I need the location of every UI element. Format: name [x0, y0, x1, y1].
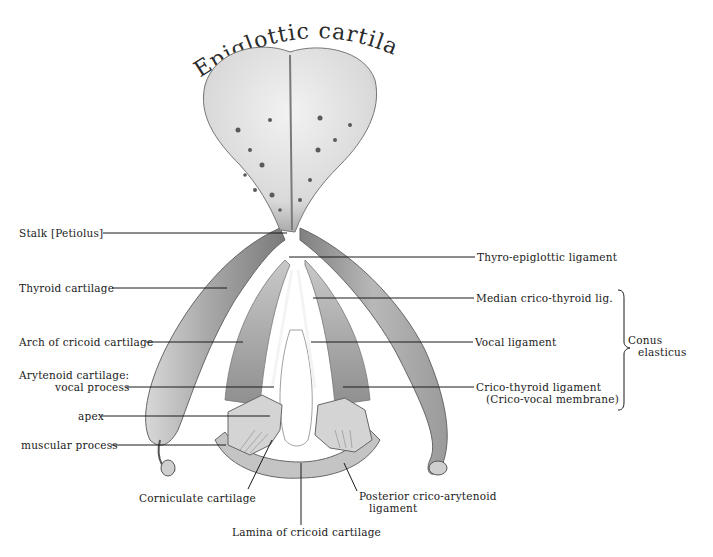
label-stalk: Stalk [Petiolus]: [19, 227, 103, 240]
label-crico-vocal-membrane: (Crico-vocal membrane): [486, 393, 619, 406]
larynx-diagram: Epiglottic cartilage: [0, 0, 713, 557]
label-thyro-epiglottic-ligament: Thyro-epiglottic ligament: [477, 251, 617, 264]
label-apex: apex: [78, 410, 104, 423]
rima-glottidis: [280, 330, 312, 446]
epiglottic-cartilage: [203, 47, 376, 232]
label-posterior-ligament: ligament: [369, 502, 417, 515]
label-lamina-cricoid: Lamina of cricoid cartilage: [232, 526, 381, 539]
label-thyroid-cartilage: Thyroid cartilage: [19, 282, 114, 295]
anatomy-illustration: [0, 0, 713, 557]
label-muscular-process: muscular process: [21, 439, 118, 452]
label-vocal-process: vocal process: [55, 381, 130, 394]
label-vocal-ligament: Vocal ligament: [475, 336, 556, 349]
label-arch-cricoid: Arch of cricoid cartilage: [19, 336, 153, 349]
label-median-crico-thyroid: Median crico-thyroid lig.: [476, 292, 613, 305]
label-corniculate-cartilage: Corniculate cartilage: [139, 492, 256, 505]
label-elasticus: elasticus: [638, 346, 687, 359]
